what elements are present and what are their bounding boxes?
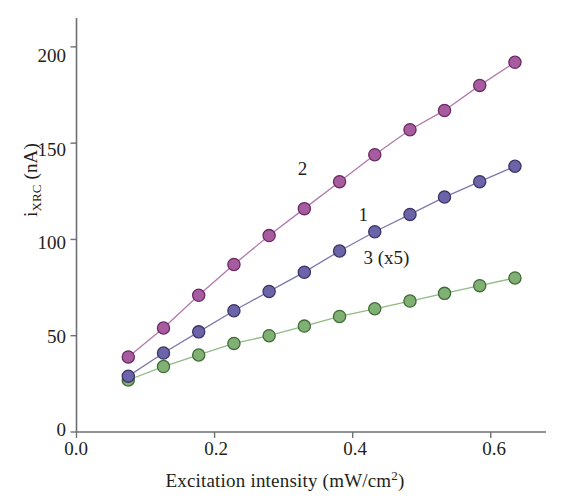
chart-figure: 200 150 100 50 0 0.0 0.2 0.4 0.6 Excitat…	[0, 0, 570, 498]
plot-area	[0, 0, 570, 498]
x-axis-title: Excitation intensity (mW/cm2)	[0, 468, 570, 492]
xtick-label-2: 0.4	[327, 438, 383, 460]
series-annotation-2: 2	[298, 158, 308, 180]
xtick-label-3: 0.6	[466, 438, 522, 460]
series-annotation-3: 3 (x5)	[363, 247, 409, 269]
xtick-label-1: 0.2	[188, 438, 244, 460]
y-axis-title: iXRC (nA)	[20, 143, 45, 217]
ytick-label-50: 50	[14, 326, 66, 348]
series-annotation-1: 1	[359, 204, 369, 226]
data-series-group	[122, 56, 521, 386]
y-axis-title-rotator: iXRC (nA)	[20, 60, 60, 300]
y-axis-title-text: i	[20, 212, 41, 217]
y-axis-title-subscript: XRC	[29, 185, 44, 212]
y-axis-title-tail: (nA)	[20, 143, 41, 185]
x-axis-title-text: Excitation intensity (mW/cm	[165, 470, 391, 491]
x-axis-title-tail: )	[398, 470, 405, 491]
xtick-label-0: 0.0	[48, 438, 104, 460]
